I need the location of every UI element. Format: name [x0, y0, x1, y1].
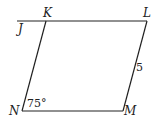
parallelogram-diagram: K L J N M 75° 5	[0, 0, 157, 123]
label-n: N	[8, 104, 20, 118]
side-l-m	[123, 21, 147, 111]
label-l: L	[142, 6, 151, 20]
angle-label: 75°	[27, 97, 47, 110]
side-length-label: 5	[136, 61, 143, 74]
label-m: M	[123, 104, 137, 118]
label-j: J	[15, 22, 24, 36]
label-k: K	[42, 6, 53, 20]
